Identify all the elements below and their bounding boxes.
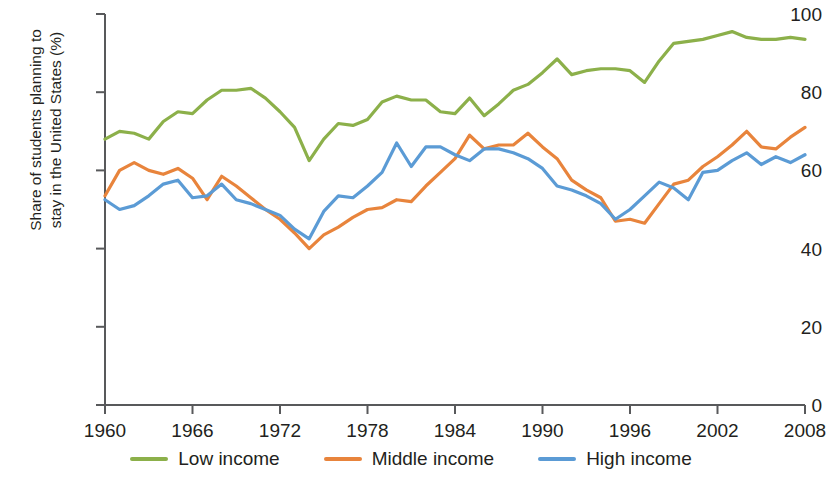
legend-label: Low income bbox=[178, 449, 279, 468]
legend-item-low-income[interactable]: Low income bbox=[130, 449, 279, 468]
x-axis-tick-label: 2002 bbox=[673, 421, 763, 440]
y-axis-tick-label: 40 bbox=[735, 240, 822, 259]
legend-swatch-icon bbox=[130, 457, 168, 461]
x-axis-tick-label: 1966 bbox=[148, 421, 238, 440]
y-axis-tick-label: 80 bbox=[735, 83, 822, 102]
y-axis-tick-label: 60 bbox=[735, 161, 822, 180]
y-axis-title-line2: stay in the United States (%) bbox=[46, 0, 66, 280]
y-axis-tick-label: 20 bbox=[735, 318, 822, 337]
legend-swatch-icon bbox=[538, 457, 576, 461]
series-line-middle-income bbox=[105, 127, 805, 248]
y-axis-title: Share of students planning to stay in th… bbox=[26, 0, 66, 280]
legend-label: High income bbox=[586, 449, 692, 468]
y-axis-tick-label: 100 bbox=[735, 5, 822, 24]
y-axis-title-line1: Share of students planning to bbox=[26, 0, 46, 280]
x-axis-tick-label: 1990 bbox=[498, 421, 588, 440]
legend-label: Middle income bbox=[372, 449, 495, 468]
x-axis-tick-label: 1972 bbox=[235, 421, 325, 440]
legend-item-high-income[interactable]: High income bbox=[538, 449, 692, 468]
x-axis-tick-label: 1960 bbox=[60, 421, 150, 440]
x-axis-tick-label: 1996 bbox=[585, 421, 675, 440]
x-axis-tick-label: 1978 bbox=[323, 421, 413, 440]
chart-legend: Low incomeMiddle incomeHigh income bbox=[0, 449, 822, 468]
x-axis-tick-label: 2008 bbox=[760, 421, 830, 440]
series-line-low-income bbox=[105, 32, 805, 161]
legend-item-middle-income[interactable]: Middle income bbox=[324, 449, 495, 468]
x-axis-tick-label: 1984 bbox=[410, 421, 500, 440]
legend-swatch-icon bbox=[324, 457, 362, 461]
y-axis-tick-label: 0 bbox=[735, 396, 822, 415]
